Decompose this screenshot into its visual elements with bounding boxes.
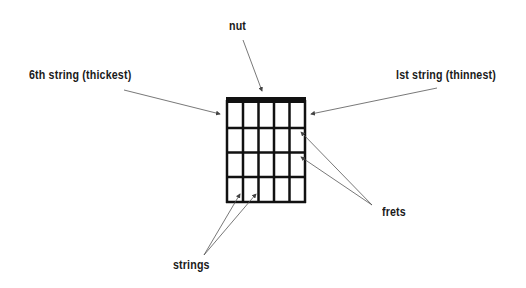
sixth-string-arrow: [124, 90, 220, 114]
pointer-arrows: [124, 40, 437, 255]
nut-arrow: [243, 40, 262, 91]
fret-lines: [226, 128, 306, 202]
nut-label: nut: [229, 18, 246, 33]
guitar-fretboard-diagram: [0, 0, 526, 288]
first-string-arrow: [311, 88, 437, 114]
nut-bar: [226, 97, 306, 103]
fret-arrow-1: [301, 132, 372, 205]
first-string-label: lst string (thinnest): [396, 67, 496, 82]
sixth-string-label: 6th string (thickest): [29, 67, 131, 82]
fret-arrow-2: [301, 157, 372, 205]
frets-label: frets: [382, 204, 406, 219]
strings-label: strings: [173, 257, 210, 272]
string-arrow-1: [204, 194, 240, 255]
chord-grid: [226, 97, 306, 203]
